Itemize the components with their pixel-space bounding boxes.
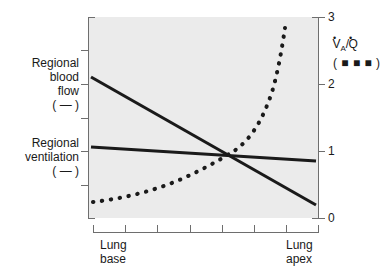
- series-regional-ventilation: [91, 147, 316, 161]
- series-regional-blood-flow: [91, 77, 316, 205]
- figure-regional-ventilation-perfusion: 3 2 1 0 Lung base Lung apex Regional blo…: [0, 0, 390, 274]
- curves-layer: [0, 0, 390, 274]
- series-va-q-ratio: [93, 28, 285, 202]
